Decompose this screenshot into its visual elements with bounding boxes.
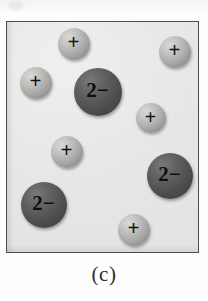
ion-diagram-panel: +++2−++2−2−+ — [6, 21, 199, 253]
particle-layer: +++2−++2−2−+ — [7, 22, 198, 252]
ion-anion-7: 2− — [147, 153, 193, 199]
ion-charge-label: + — [30, 71, 42, 92]
figure-caption: (c) — [0, 262, 208, 287]
ion-cation-9: + — [118, 214, 150, 246]
scan-paper-tone — [0, 0, 208, 20]
scan-smudge-artifact — [8, 1, 24, 10]
ion-charge-label: 2− — [86, 80, 108, 101]
ion-charge-label: + — [61, 140, 73, 161]
ion-charge-label: + — [169, 40, 181, 61]
ion-anion-8: 2− — [21, 182, 67, 228]
ion-cation-1: + — [58, 28, 90, 60]
ion-charge-label: + — [68, 32, 80, 53]
ion-cation-5: + — [136, 103, 166, 133]
ion-anion-4: 2− — [74, 68, 122, 116]
ion-charge-label: + — [128, 218, 140, 239]
ion-charge-label: 2− — [158, 164, 180, 185]
ion-cation-2: + — [159, 36, 191, 68]
ion-charge-label: 2− — [32, 193, 54, 214]
ion-charge-label: + — [145, 107, 156, 127]
ion-cation-3: + — [20, 67, 52, 99]
ion-cation-6: + — [51, 136, 83, 168]
figure-root: +++2−++2−2−+ (c) — [0, 0, 208, 301]
